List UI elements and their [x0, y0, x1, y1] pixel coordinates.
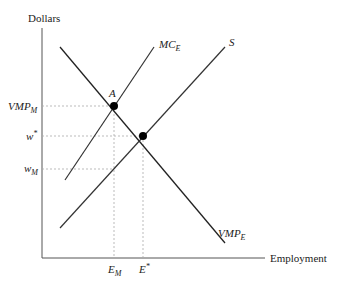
mc-label: MCE [158, 38, 181, 53]
y-tick-vmpm: VMPM [8, 100, 39, 115]
y-axis-label: Dollars [28, 12, 60, 24]
y-tick-wstar: w* [26, 129, 37, 142]
point-a-label: A [108, 87, 116, 99]
x-tick-em: EM [107, 263, 123, 278]
point-competitive [139, 132, 147, 140]
x-tick-estar: E* [138, 262, 150, 275]
guide-lines [42, 106, 143, 258]
vmp-curve [60, 47, 225, 243]
mc-curve [65, 47, 154, 180]
monopsony-diagram: Dollars Employment A MCE S VMPE VMPM w* … [0, 0, 337, 283]
supply-label: S [229, 36, 235, 48]
x-axis-label: Employment [270, 252, 327, 264]
point-a [110, 102, 118, 110]
y-tick-wm: wM [24, 162, 39, 177]
